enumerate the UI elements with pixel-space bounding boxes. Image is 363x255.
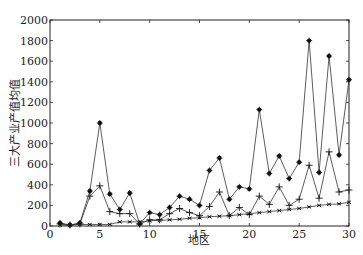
x-tick-label: 20	[242, 228, 256, 241]
x-tick-label: 30	[342, 228, 356, 241]
y-tick-label: 1000	[20, 117, 48, 130]
y-tick-label: 1600	[20, 55, 48, 68]
y-tick-label: 1400	[20, 76, 48, 89]
y-tick-label: 1800	[20, 35, 48, 48]
y-tick-label: 400	[27, 179, 48, 192]
line-chart: 0510152025300200400600800100012001400160…	[0, 0, 363, 255]
y-tick-label: 600	[27, 158, 48, 171]
x-axis-label: 地区	[188, 234, 210, 247]
plot-frame	[50, 20, 349, 226]
y-tick-label: 200	[27, 199, 48, 212]
y-axis-label: 三大产业产值均值	[8, 79, 22, 167]
y-tick-label: 2000	[20, 14, 48, 27]
y-tick-label: 1200	[20, 96, 48, 109]
series-x	[58, 201, 351, 227]
y-tick-label: 0	[41, 220, 48, 233]
x-tick-label: 10	[143, 228, 157, 241]
y-tick-label: 800	[27, 138, 48, 151]
x-tick-label: 25	[292, 228, 306, 241]
axes: 0510152025300200400600800100012001400160…	[20, 14, 356, 241]
x-tick-label: 5	[96, 228, 103, 241]
series-star	[57, 38, 352, 228]
plot-area	[56, 38, 352, 229]
